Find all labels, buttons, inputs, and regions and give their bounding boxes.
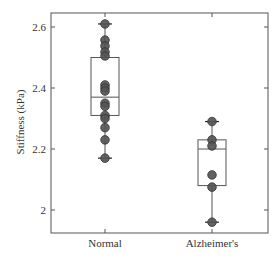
y-axis-ticks: 22.22.42.6	[32, 21, 268, 216]
plot-area	[51, 13, 268, 233]
y-tick-label: 2	[41, 204, 47, 216]
data-point	[101, 20, 110, 29]
x-tick-label: Alzheimer's	[186, 237, 239, 249]
x-axis-ticks: NormalAlzheimer's	[88, 13, 238, 249]
data-point	[101, 154, 110, 163]
box-group	[91, 24, 226, 222]
y-tick-label: 2.6	[32, 21, 46, 33]
data-points	[101, 20, 217, 227]
data-point	[208, 171, 217, 180]
data-point	[101, 52, 110, 61]
plot-frame	[51, 13, 268, 233]
data-point	[208, 117, 217, 126]
y-axis-label: Stiffness (kPa)	[14, 89, 27, 154]
box-plot-chart: 22.22.42.6 NormalAlzheimer's Stiffness (…	[0, 0, 280, 259]
data-point	[101, 123, 110, 132]
data-point	[208, 218, 217, 227]
x-tick-label: Normal	[88, 237, 122, 249]
data-point	[101, 102, 110, 111]
data-point	[101, 114, 110, 123]
data-point	[208, 142, 217, 151]
data-point	[208, 183, 217, 192]
data-point	[101, 136, 110, 145]
y-tick-label: 2.2	[32, 143, 46, 155]
data-point	[101, 87, 110, 96]
y-tick-label: 2.4	[32, 82, 46, 94]
